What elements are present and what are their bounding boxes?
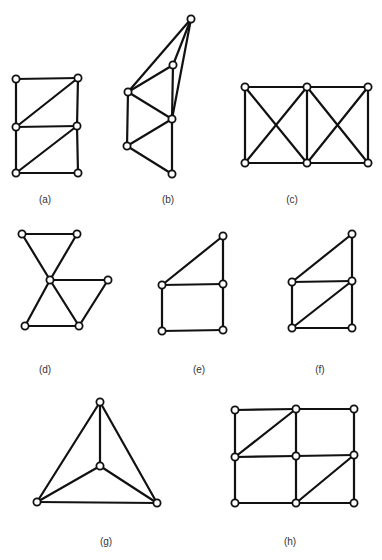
graph-node xyxy=(350,499,357,506)
graph-node xyxy=(153,499,160,506)
panel-f: (f) xyxy=(288,230,355,375)
graph-edge xyxy=(173,19,191,65)
graph-node xyxy=(350,451,357,458)
graph-node xyxy=(292,499,299,506)
graph-edge xyxy=(128,19,191,92)
graph-node xyxy=(12,123,19,130)
graph-node xyxy=(187,15,194,22)
panel-h: (h) xyxy=(231,405,357,547)
graph-node xyxy=(74,74,81,81)
graph-edge xyxy=(16,78,78,79)
graph-node xyxy=(241,159,248,166)
graph-node xyxy=(96,462,103,469)
graph-node xyxy=(219,280,226,287)
panel-g-edges xyxy=(37,402,157,503)
graph-edge xyxy=(162,330,223,331)
graph-node xyxy=(303,159,310,166)
graph-edge xyxy=(127,92,128,146)
panel-e-edges xyxy=(162,236,223,331)
graph-node xyxy=(168,115,175,122)
graph-edge xyxy=(292,281,352,282)
panel-e: (e) xyxy=(158,232,226,375)
panel-a-label: (a) xyxy=(39,194,51,205)
graph-edge xyxy=(127,119,172,146)
panel-a: (a) xyxy=(12,74,81,205)
graph-node xyxy=(292,405,299,412)
graph-node xyxy=(73,122,80,129)
graph-node xyxy=(288,278,295,285)
graph-edge xyxy=(37,466,100,502)
panel-e-label: (e) xyxy=(193,364,205,375)
graph-node xyxy=(104,276,111,283)
graph-edge xyxy=(50,280,79,326)
panel-g-nodes xyxy=(33,398,160,506)
graph-node xyxy=(303,83,310,90)
panel-b-edges xyxy=(127,19,191,174)
panel-b-label: (b) xyxy=(162,194,174,205)
graph-node xyxy=(364,159,371,166)
graph-node xyxy=(12,169,19,176)
panel-a-edges xyxy=(16,78,78,173)
graph-edge xyxy=(235,456,296,457)
graph-node xyxy=(21,322,28,329)
panel-g-label: (g) xyxy=(100,536,112,547)
graph-edge xyxy=(127,146,172,174)
graph-edge xyxy=(296,455,354,503)
graph-edge xyxy=(79,280,108,326)
panel-c-label: (c) xyxy=(286,194,298,205)
panel-g: (g) xyxy=(33,398,160,547)
panel-b: (b) xyxy=(123,15,194,205)
graph-edge xyxy=(16,126,77,127)
graph-edge xyxy=(77,126,78,173)
graph-node xyxy=(168,170,175,177)
graph-edge xyxy=(100,466,157,503)
graph-node xyxy=(364,83,371,90)
graph-node xyxy=(288,324,295,331)
graph-node xyxy=(169,61,176,68)
panel-c-edges xyxy=(245,87,368,163)
graph-edge xyxy=(37,502,157,503)
graph-edge xyxy=(162,284,223,285)
graph-node xyxy=(292,452,299,459)
panel-c: (c) xyxy=(241,83,371,205)
graph-node xyxy=(219,326,226,333)
graph-node xyxy=(33,498,40,505)
graph-node xyxy=(231,499,238,506)
graph-edge xyxy=(128,92,172,119)
graph-node xyxy=(158,281,165,288)
graph-edge xyxy=(16,126,77,173)
graph-edge xyxy=(25,280,50,326)
graph-edge xyxy=(16,78,78,127)
panel-d-label: (d) xyxy=(39,364,51,375)
graph-node xyxy=(96,398,103,405)
graph-node xyxy=(73,230,80,237)
graph-edge xyxy=(235,409,296,410)
graph-node xyxy=(74,169,81,176)
graph-node xyxy=(158,327,165,334)
graph-edge xyxy=(77,78,78,126)
graph-edge xyxy=(22,234,50,280)
graph-node xyxy=(46,276,53,283)
graph-node xyxy=(75,322,82,329)
panel-d: (d) xyxy=(18,230,111,375)
graph-node xyxy=(231,406,238,413)
graph-edge xyxy=(128,65,173,92)
graph-edge xyxy=(100,402,157,503)
graph-node xyxy=(124,88,131,95)
graph-edge xyxy=(292,234,352,282)
graph-edge xyxy=(37,402,100,502)
panel-d-edges xyxy=(22,234,108,326)
panel-f-edges xyxy=(292,234,352,328)
graph-node xyxy=(348,324,355,331)
graph-edge xyxy=(296,455,354,456)
graph-node xyxy=(123,142,130,149)
panel-f-label: (f) xyxy=(315,364,324,375)
graph-node xyxy=(348,277,355,284)
graph-node xyxy=(350,405,357,412)
graph-edge xyxy=(162,236,223,285)
graph-edge xyxy=(235,409,296,457)
graph-node xyxy=(219,232,226,239)
panel-h-label: (h) xyxy=(284,536,296,547)
graph-edge xyxy=(172,65,173,119)
graph-edge xyxy=(50,234,77,280)
